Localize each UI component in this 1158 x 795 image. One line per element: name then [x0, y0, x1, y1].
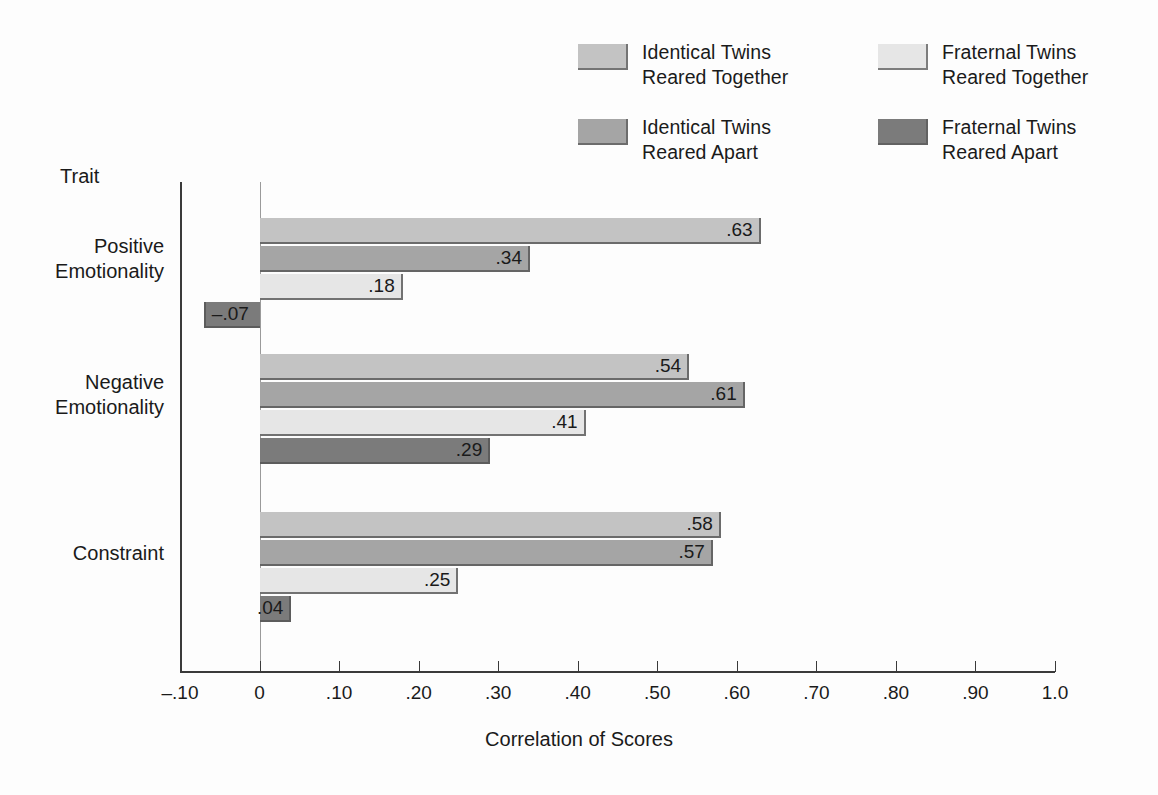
bar-value-label: .34 [490, 247, 528, 269]
x-tick-label: .90 [962, 682, 988, 704]
x-tick [975, 661, 976, 672]
x-tick [419, 661, 420, 672]
legend-swatch-identical-together [578, 44, 628, 70]
x-axis-line [180, 671, 1055, 673]
x-tick-label: .20 [405, 682, 431, 704]
category-label: Constraint [73, 541, 164, 566]
x-tick [816, 661, 817, 672]
bar-value-label: .54 [649, 355, 687, 377]
bar-value-label: .18 [362, 275, 400, 297]
bar: .04 [260, 596, 292, 622]
chart-figure: Identical Twins Reared Together Fraterna… [0, 0, 1158, 795]
bar: .29 [260, 438, 491, 464]
bar: .41 [260, 410, 586, 436]
x-tick [896, 661, 897, 672]
legend-item-fraternal-together: Fraternal Twins Reared Together [878, 40, 1088, 90]
bar-value-label: –.07 [206, 303, 255, 325]
x-tick-label: 1.0 [1042, 682, 1068, 704]
x-tick [180, 661, 181, 672]
bar: .61 [260, 382, 745, 408]
x-tick-label: –.10 [162, 682, 199, 704]
x-tick-label: .40 [565, 682, 591, 704]
x-tick-label: .80 [883, 682, 909, 704]
y-axis-line [180, 182, 182, 672]
x-tick-label: 0 [254, 682, 265, 704]
bar-value-label: .63 [720, 219, 758, 241]
legend-item-identical-apart: Identical Twins Reared Apart [578, 115, 771, 165]
x-tick [339, 661, 340, 672]
bar-value-label: .61 [704, 383, 742, 405]
bar-value-label: .25 [418, 569, 456, 591]
x-tick [1055, 661, 1056, 672]
bar-value-label: .04 [251, 597, 289, 619]
bar-value-label: .57 [673, 541, 711, 563]
x-tick [657, 661, 658, 672]
legend-label-identical-apart: Identical Twins Reared Apart [642, 115, 771, 165]
legend-swatch-fraternal-together [878, 44, 928, 70]
x-axis-title: Correlation of Scores [0, 728, 1158, 751]
plot-area: –.100.10.20.30.40.50.60.70.80.901.0 .63.… [180, 182, 1055, 672]
x-tick-label: .10 [326, 682, 352, 704]
bar-value-label: .41 [545, 411, 583, 433]
legend-swatch-identical-apart [578, 119, 628, 145]
x-tick-label: .70 [803, 682, 829, 704]
bar: .63 [260, 218, 761, 244]
bar: .25 [260, 568, 459, 594]
bar: .34 [260, 246, 530, 272]
legend-label-fraternal-apart: Fraternal Twins Reared Apart [942, 115, 1076, 165]
bar: .54 [260, 354, 690, 380]
x-tick [578, 661, 579, 672]
x-tick-label: .30 [485, 682, 511, 704]
legend-label-identical-together: Identical Twins Reared Together [642, 40, 788, 90]
x-tick [498, 661, 499, 672]
y-axis-title: Trait [60, 165, 99, 188]
bar-value-label: .29 [450, 439, 488, 461]
x-tick [737, 661, 738, 672]
chart-legend: Identical Twins Reared Together Fraterna… [578, 40, 1148, 180]
bar: .58 [260, 512, 721, 538]
bar: .57 [260, 540, 713, 566]
legend-item-identical-together: Identical Twins Reared Together [578, 40, 788, 90]
legend-swatch-fraternal-apart [878, 119, 928, 145]
bar: .18 [260, 274, 403, 300]
x-tick-label: .60 [724, 682, 750, 704]
bar: –.07 [204, 302, 260, 328]
category-label: Positive Emotionality [55, 234, 164, 284]
legend-item-fraternal-apart: Fraternal Twins Reared Apart [878, 115, 1076, 165]
x-tick [260, 661, 261, 672]
x-tick-label: .50 [644, 682, 670, 704]
category-label: Negative Emotionality [55, 370, 164, 420]
legend-label-fraternal-together: Fraternal Twins Reared Together [942, 40, 1088, 90]
bar-value-label: .58 [680, 513, 718, 535]
